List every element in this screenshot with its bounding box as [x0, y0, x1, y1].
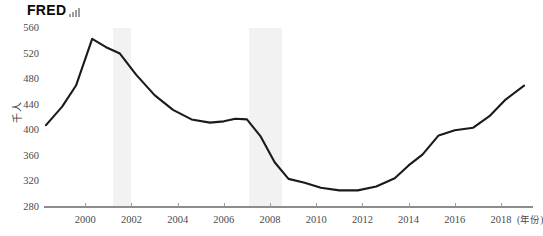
x-tick-label: 2016 [444, 215, 465, 226]
plot-area [46, 28, 531, 207]
y-tick-label: 320 [5, 176, 39, 187]
bar-chart-icon [69, 8, 80, 17]
x-tick-mark [409, 203, 410, 207]
x-tick-mark [131, 203, 132, 207]
x-tick-label: 2006 [213, 215, 234, 226]
x-tick-label: 2004 [167, 215, 188, 226]
x-tick-mark [455, 203, 456, 207]
x-tick-mark [178, 203, 179, 207]
x-tick-label: 2018 [490, 215, 511, 226]
fred-logo-text: FRED [27, 3, 66, 17]
x-tick-label: 2008 [260, 215, 281, 226]
series-line [46, 28, 531, 207]
fred-logo: FRED [27, 3, 80, 17]
y-tick-label: 280 [5, 202, 39, 213]
x-tick-mark [362, 203, 363, 207]
y-tick-label: 560 [5, 23, 39, 34]
x-tick-label: 2010 [306, 215, 327, 226]
x-axis-label: (年份) [517, 216, 543, 226]
x-tick-mark [270, 203, 271, 207]
x-axis-line [44, 206, 533, 208]
x-tick-mark [501, 203, 502, 207]
x-tick-label: 2012 [352, 215, 373, 226]
x-tick-mark [316, 203, 317, 207]
y-tick-label: 400 [5, 125, 39, 136]
x-tick-mark [85, 203, 86, 207]
y-tick-label: 440 [5, 100, 39, 111]
y-tick-label: 520 [5, 49, 39, 60]
x-tick-mark [224, 203, 225, 207]
x-tick-label: 2002 [121, 215, 142, 226]
x-tick-label: 2014 [398, 215, 419, 226]
y-tick-label: 480 [5, 74, 39, 85]
y-tick-label: 360 [5, 151, 39, 162]
x-tick-label: 2000 [75, 215, 96, 226]
